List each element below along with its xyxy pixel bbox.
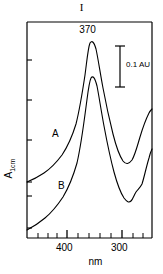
peak-wavelength-value: 370 [79, 24, 96, 35]
spectrum-figure: I 370 0.1 AU 400 300 nm A1cm A B [0, 0, 163, 274]
plot-frame [27, 22, 152, 238]
peak-wavelength-label: 370 [0, 24, 163, 35]
y-axis-title-main: A [3, 172, 14, 179]
curve-a-label: A [52, 128, 59, 139]
x-tick-label-300: 300 [111, 242, 128, 253]
x-axis-title-value: nm [89, 256, 103, 267]
y-axis-ticks [27, 60, 32, 228]
x-tick-label-400: 400 [56, 242, 73, 253]
curve-b-label: B [58, 180, 65, 191]
x-axis-title: nm [0, 256, 163, 267]
curve-b-trace [27, 77, 152, 230]
y-axis-title: A1cm [3, 146, 16, 192]
x-axis-ticks [38, 230, 143, 238]
spectrum-plot-svg [0, 0, 163, 274]
figure-title: I [0, 1, 163, 13]
y-axis-title-sub: 1cm [9, 159, 16, 172]
scale-bar [115, 46, 125, 87]
scale-bar-label: 0.1 AU [126, 60, 150, 69]
